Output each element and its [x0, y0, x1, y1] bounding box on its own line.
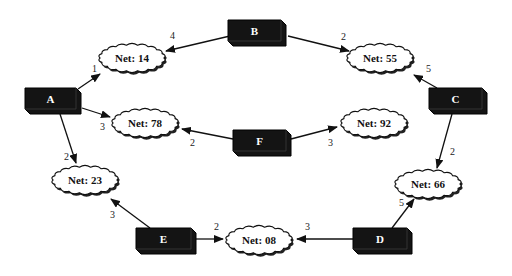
- link-B-n14: 4: [166, 30, 230, 51]
- router-label: A: [47, 93, 55, 105]
- link-arrow: [166, 36, 230, 51]
- link-cost-label: 3: [100, 121, 105, 132]
- router-E[interactable]: E: [136, 228, 196, 254]
- router-label: F: [256, 135, 263, 147]
- link-arrow: [437, 114, 452, 168]
- router-label: B: [251, 25, 259, 37]
- link-F-n92: 3: [291, 127, 337, 148]
- link-cost-label: 3: [110, 209, 115, 220]
- network-cloud-n66[interactable]: Net: 66: [395, 169, 463, 200]
- network-label: Net: 14: [115, 52, 149, 64]
- link-F-n78: 2: [182, 129, 233, 148]
- network-cloud-n55[interactable]: Net: 55: [347, 43, 415, 74]
- link-cost-label: 1: [92, 63, 97, 74]
- link-C-n66: 2: [437, 114, 455, 168]
- link-cost-label: 4: [170, 30, 175, 41]
- router-B[interactable]: B: [228, 20, 286, 46]
- link-D-n08: 3: [297, 221, 353, 239]
- network-cloud-n14[interactable]: Net: 14: [99, 43, 167, 74]
- network-label: Net: 78: [128, 117, 162, 129]
- link-cost-label: 2: [341, 31, 346, 42]
- link-cost-label: 2: [64, 151, 69, 162]
- network-cloud-n23[interactable]: Net: 23: [52, 165, 120, 196]
- link-A-n78: 3: [82, 108, 110, 132]
- network-label: Net: 66: [411, 178, 445, 190]
- router-D[interactable]: D: [353, 228, 412, 254]
- router-label: D: [376, 233, 384, 245]
- router-label: C: [452, 93, 460, 105]
- network-label: Net: 08: [242, 234, 276, 246]
- link-arrow: [111, 199, 150, 228]
- link-cost-label: 5: [399, 197, 404, 208]
- link-cost-label: 3: [328, 137, 333, 148]
- link-arrow: [414, 75, 437, 88]
- link-cost-label: 2: [190, 137, 195, 148]
- link-arrow: [78, 74, 100, 89]
- router-A[interactable]: A: [25, 88, 81, 114]
- link-E-n23: 3: [110, 199, 150, 228]
- link-C-n55: 5: [414, 63, 437, 88]
- network-label: Net: 92: [357, 117, 391, 129]
- link-A-n23: 2: [60, 114, 76, 163]
- network-label: Net: 23: [68, 174, 102, 186]
- network-cloud-n08[interactable]: Net: 08: [226, 225, 294, 256]
- router-label: E: [160, 233, 167, 245]
- link-arrow: [288, 36, 349, 51]
- router-F[interactable]: F: [233, 130, 291, 156]
- router-C[interactable]: C: [429, 88, 487, 114]
- link-cost-label: 2: [214, 221, 219, 232]
- link-cost-label: 2: [450, 146, 455, 157]
- link-cost-label: 3: [305, 221, 310, 232]
- link-D-n66: 5: [392, 197, 414, 228]
- network-diagram: 1324252233235 Net: 14Net: 55Net: 78Net: …: [0, 0, 512, 276]
- link-arrow: [82, 108, 110, 117]
- network-cloud-n78[interactable]: Net: 78: [112, 108, 180, 139]
- link-cost-label: 5: [426, 63, 431, 74]
- network-label: Net: 55: [363, 52, 397, 64]
- network-cloud-n92[interactable]: Net: 92: [341, 108, 409, 139]
- link-B-n55: 2: [288, 31, 349, 51]
- link-E-n08: 2: [196, 221, 223, 239]
- link-A-n14: 1: [78, 63, 100, 89]
